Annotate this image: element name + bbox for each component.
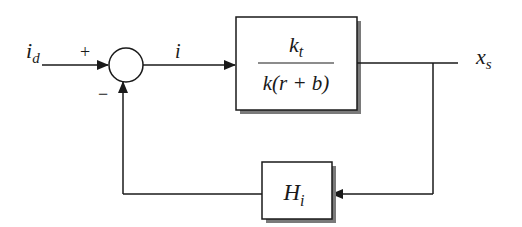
block-diagram: id + − i kt k(r + b) xs Hi — [0, 0, 522, 227]
input-label: id — [26, 38, 40, 66]
output-label: xs — [475, 44, 492, 72]
error-signal-label: i — [175, 40, 181, 62]
forward-block-denominator: k(r + b) — [263, 71, 330, 95]
minus-sign: − — [98, 84, 108, 104]
plus-sign: + — [80, 42, 90, 62]
summing-junction — [109, 48, 143, 82]
